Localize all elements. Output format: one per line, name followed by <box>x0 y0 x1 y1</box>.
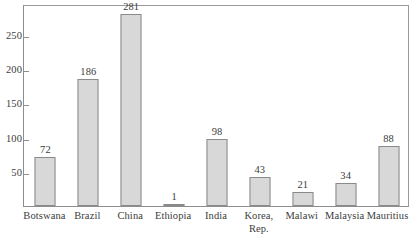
bar-slot: 34 <box>324 6 367 206</box>
bar-slot: 186 <box>67 6 110 206</box>
bar[interactable] <box>249 177 270 206</box>
plot-area: 7218628119843213488 <box>23 5 409 207</box>
y-axis: 50100150200250 <box>0 0 22 240</box>
bar-slot: 88 <box>367 6 410 206</box>
bar-value-label: 88 <box>383 133 394 144</box>
y-axis-tick-label: 200 <box>0 65 22 76</box>
bar[interactable] <box>164 204 185 206</box>
bar-value-label: 72 <box>40 144 51 155</box>
bar-value-label: 186 <box>80 66 96 77</box>
y-axis-tick-label: 150 <box>0 99 22 110</box>
bar-chart: 50100150200250 7218628119843213488 Botsw… <box>0 0 413 240</box>
y-axis-tick-label: 100 <box>0 134 22 145</box>
y-axis-tick-label: 50 <box>0 168 22 179</box>
bar-slot: 72 <box>24 6 67 206</box>
x-axis-tick-label: Mauritius <box>362 209 413 222</box>
bar[interactable] <box>335 183 356 206</box>
bar[interactable] <box>378 146 399 206</box>
y-axis-tick-label: 250 <box>0 31 22 42</box>
bar-series: 7218628119843213488 <box>24 6 408 206</box>
bar-slot: 43 <box>238 6 281 206</box>
bar-slot: 1 <box>153 6 196 206</box>
bar-value-label: 98 <box>212 126 223 137</box>
bar-slot: 281 <box>110 6 153 206</box>
bar-value-label: 34 <box>340 170 351 181</box>
bar[interactable] <box>35 157 56 206</box>
bar-value-label: 281 <box>123 1 139 12</box>
bar-slot: 98 <box>196 6 239 206</box>
bar-value-label: 1 <box>171 191 176 202</box>
bar[interactable] <box>206 139 227 206</box>
bar-slot: 21 <box>281 6 324 206</box>
bar-value-label: 21 <box>297 179 308 190</box>
bar[interactable] <box>121 14 142 206</box>
bar-value-label: 43 <box>255 164 266 175</box>
x-axis: BotswanaBrazilChinaEthiopiaIndiaKorea, R… <box>23 209 409 240</box>
bar[interactable] <box>78 79 99 206</box>
bar[interactable] <box>292 192 313 206</box>
